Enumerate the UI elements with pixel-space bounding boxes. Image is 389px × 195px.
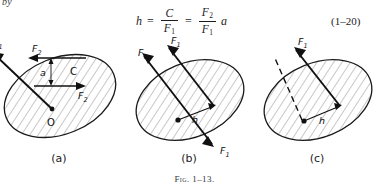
- body-ellipse: [252, 45, 382, 156]
- label-point-o: O: [47, 117, 55, 128]
- equation-trailing-factor: a: [221, 14, 227, 29]
- figure-caption-number: 1–13.: [192, 174, 214, 184]
- equation-number: (1–20): [331, 15, 360, 27]
- numerator-symbol: F: [202, 6, 209, 18]
- label-point-c: C: [70, 66, 77, 77]
- label-f2-top: F2: [32, 43, 42, 57]
- panel-label-c: (c): [252, 152, 382, 165]
- figure-1-13: F2 F2 a C O F1: [0, 34, 389, 195]
- label-f1-upper-left: F1: [138, 47, 148, 61]
- equation-lhs: h: [136, 14, 142, 29]
- figure-page: by h = C F1 = F2 F1 a (1–20): [0, 0, 389, 195]
- fraction-f2-over-f1: F2 F1: [199, 6, 216, 37]
- denominator-symbol: F: [164, 22, 171, 34]
- equals-sign-1: =: [147, 14, 154, 29]
- label-distance-h: h: [192, 114, 198, 125]
- label-distance-a: a: [40, 67, 46, 78]
- fraction-numerator: F2: [199, 6, 216, 21]
- panel-label-a: (a): [0, 152, 124, 165]
- numerator-subscript: 2: [209, 11, 213, 20]
- figure-caption-prefix: Fig.: [174, 174, 189, 184]
- label-f1-clipped: F1: [0, 37, 3, 51]
- label-f1-upper-right: F1: [298, 36, 308, 50]
- fraction-numerator: C: [163, 7, 177, 20]
- equation-row: h = C F1 = F2 F1 a (1–20): [0, 6, 389, 34]
- fraction-c-over-f1: C F1: [161, 7, 178, 36]
- body-ellipse: [0, 39, 124, 153]
- label-distance-h: h: [319, 115, 325, 126]
- panel-label-b: (b): [124, 152, 254, 165]
- body-ellipse: [124, 45, 254, 156]
- equals-sign-2: =: [185, 14, 192, 29]
- figure-caption: Fig. 1–13.: [0, 174, 389, 184]
- displayed-equation: h = C F1 = F2 F1 a: [136, 6, 227, 37]
